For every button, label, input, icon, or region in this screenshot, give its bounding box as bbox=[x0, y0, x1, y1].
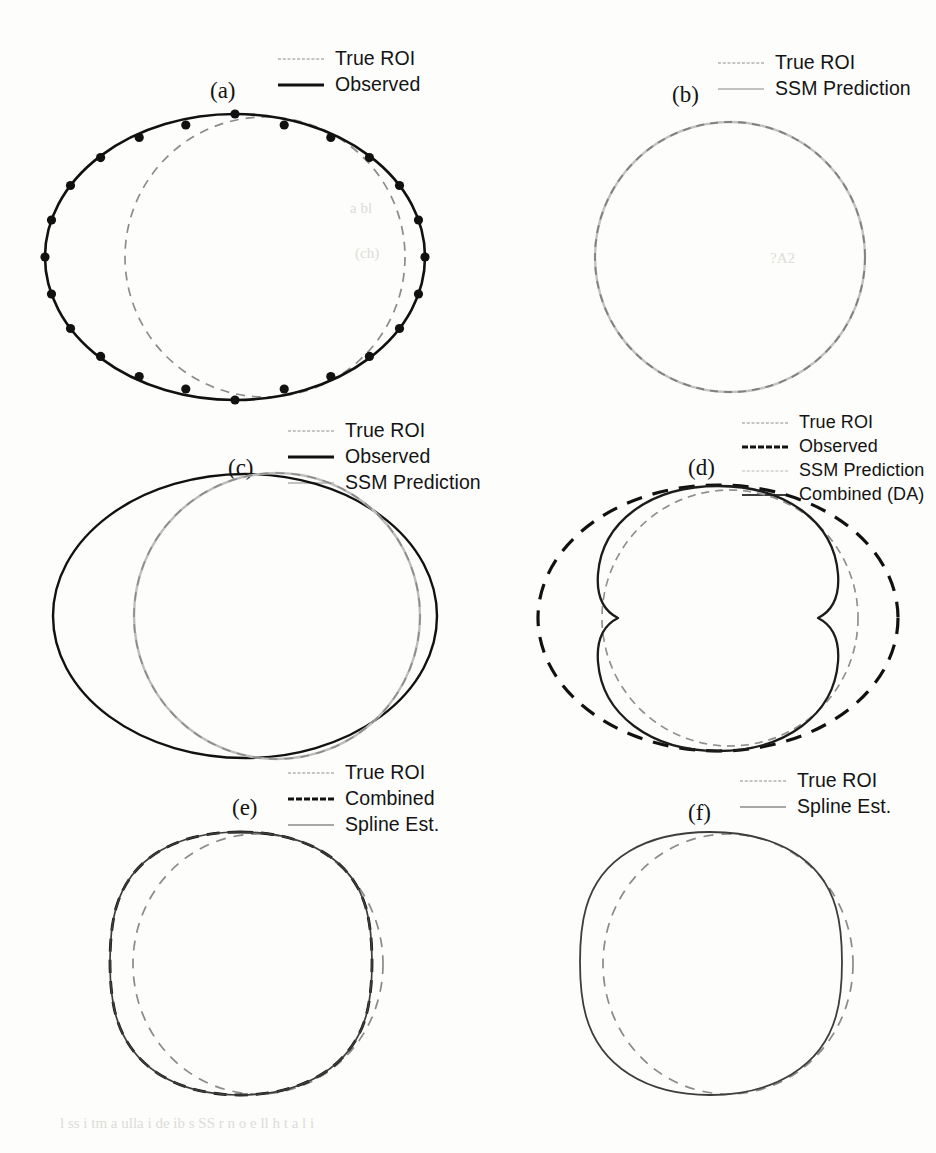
panel-b-tag: (b) bbox=[672, 82, 699, 108]
legend-item-observed: Observed bbox=[742, 435, 924, 458]
legend-item-true-roi: True ROI bbox=[288, 418, 481, 443]
panel-a-legend: True ROI Observed bbox=[278, 46, 420, 97]
legend-item-observed: Observed bbox=[278, 72, 420, 97]
legend-line-dashed-gray-icon bbox=[278, 52, 324, 66]
legend-line-dashed-gray-icon bbox=[740, 774, 786, 788]
legend-item-combined: Combined bbox=[288, 786, 439, 811]
observation-markers bbox=[40, 109, 429, 404]
curve-ssm-prediction bbox=[134, 473, 420, 759]
legend-label: Observed bbox=[799, 436, 878, 457]
legend-line-solid-black-icon bbox=[278, 78, 324, 92]
panel-b-legend: True ROI SSM Prediction bbox=[718, 50, 911, 101]
legend-label: True ROI bbox=[775, 52, 855, 73]
legend-line-dashed-gray-icon bbox=[742, 416, 788, 430]
curve-combined-da bbox=[598, 486, 839, 751]
roi-contour-figure: a bl (ch) ?A2 l ss i tm a ulla i de ib s… bbox=[0, 0, 936, 1153]
curve-spline-est bbox=[110, 832, 372, 1095]
panel-f-plot bbox=[560, 812, 880, 1112]
scan-bleed-artifact: l ss i tm a ulla i de ib s SS r n o e ll… bbox=[60, 1115, 314, 1132]
curve-true-roi bbox=[595, 122, 865, 392]
legend-line-dashed-black-icon bbox=[742, 440, 788, 454]
legend-line-dashed-gray-icon bbox=[288, 766, 334, 780]
curve-observed bbox=[538, 485, 898, 751]
legend-item-ssm-prediction: SSM Prediction bbox=[718, 76, 911, 101]
legend-label: SSM Prediction bbox=[775, 78, 911, 99]
panel-a-plot bbox=[30, 105, 450, 405]
curve-true-roi bbox=[134, 473, 420, 759]
legend-line-dashed-gray-icon bbox=[288, 424, 334, 438]
legend-item-true-roi: True ROI bbox=[740, 768, 891, 793]
panel-d-plot bbox=[518, 470, 918, 760]
panel-c-plot bbox=[40, 468, 460, 768]
panel-a-tag: (a) bbox=[210, 78, 236, 104]
legend-item-observed: Observed bbox=[288, 444, 481, 469]
curve-combined bbox=[110, 832, 372, 1095]
legend-label: True ROI bbox=[345, 762, 425, 783]
legend-line-solid-black-icon bbox=[288, 450, 334, 464]
panel-e-plot bbox=[90, 812, 410, 1112]
panel-b-plot bbox=[580, 112, 880, 402]
curve-ssm-prediction bbox=[595, 122, 865, 392]
legend-label: True ROI bbox=[797, 770, 877, 791]
legend-label: Observed bbox=[335, 74, 420, 95]
legend-label: True ROI bbox=[345, 420, 425, 441]
legend-item-true-roi: True ROI bbox=[278, 46, 420, 71]
curve-true-roi bbox=[125, 117, 405, 397]
legend-item-true-roi: True ROI bbox=[718, 50, 911, 75]
legend-line-dashed-black-icon bbox=[288, 792, 334, 806]
legend-line-solid-lightgray-icon bbox=[718, 82, 764, 96]
legend-item-true-roi: True ROI bbox=[742, 411, 924, 434]
legend-label: True ROI bbox=[799, 412, 873, 433]
legend-label: True ROI bbox=[335, 48, 415, 69]
legend-item-true-roi: True ROI bbox=[288, 760, 439, 785]
legend-line-dashed-gray-icon bbox=[718, 56, 764, 70]
legend-label: Observed bbox=[345, 446, 430, 467]
curve-spline-est bbox=[580, 832, 842, 1095]
legend-label: Combined bbox=[345, 788, 435, 809]
